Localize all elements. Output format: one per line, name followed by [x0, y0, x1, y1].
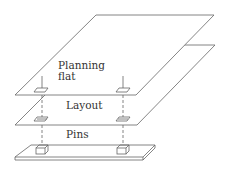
- layer-stack-diagram: Planning flat Layout Pins: [0, 0, 227, 171]
- pins-label: Pins: [66, 129, 89, 140]
- layout-label: Layout: [66, 100, 102, 111]
- planning-flat-label: Planning flat: [58, 60, 105, 82]
- right-hole-planning: [116, 88, 130, 92]
- left-hole-planning: [34, 88, 48, 92]
- planning-label-line2: flat: [58, 71, 105, 82]
- diagram-drawing: [0, 0, 227, 171]
- planning-flat-plane: [15, 15, 214, 95]
